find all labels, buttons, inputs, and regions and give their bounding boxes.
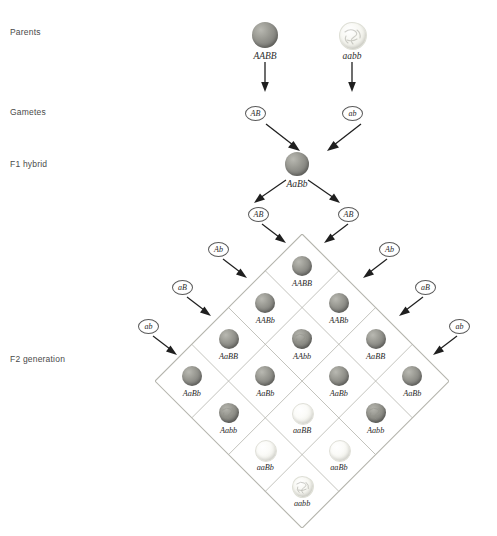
punnett-genotype-label: AaBb	[256, 389, 274, 398]
f1-hybrid-genotype: AaBb	[286, 179, 307, 189]
punnett-genotype-label: AAbb	[293, 352, 311, 361]
arrow-gamete1-to-f1	[266, 124, 302, 154]
punnett-seed-aabb-7	[366, 403, 386, 423]
parent-genotype-1: AABB	[253, 51, 276, 61]
punnett-seed-aabb-10	[292, 403, 314, 425]
punnett-seed-aabb-13	[219, 403, 239, 423]
punnett-seed-aabb-2	[366, 329, 386, 349]
row-label-f1-hybrid: F1 hybrid	[10, 159, 47, 169]
punnett-genotype-label: AaBb	[330, 389, 348, 398]
wrinkle-texture-icon	[219, 403, 239, 423]
punnett-genotype-label: AABb	[329, 316, 348, 325]
punnett-genotype-label: AaBb	[403, 389, 421, 398]
arrow-parent2-to-gamete	[345, 62, 359, 92]
f1-hybrid-seed	[285, 152, 309, 176]
punnett-genotype-label: AABb	[256, 316, 275, 325]
genetics-diagram-canvas: Parents Gametes F1 hybrid F2 generation …	[0, 0, 497, 536]
arrow-f1-to-gamete-left	[252, 180, 286, 206]
punnett-genotype-label: aaBB	[293, 426, 311, 435]
f1-gamete-right-ab3: ab	[449, 319, 470, 334]
punnett-genotype-label: Aabb	[367, 426, 384, 435]
f1-gamete-top-left: AB	[248, 207, 269, 222]
parent-seed-aabb-dominant	[252, 22, 278, 48]
punnett-genotype-label: AaBB	[366, 352, 385, 361]
punnett-seed-aabb-1	[329, 293, 349, 313]
wrinkle-texture-icon	[293, 477, 313, 497]
row-label-parents: Parents	[10, 27, 41, 37]
row-label-f2-generation: F2 generation	[10, 354, 65, 364]
punnett-seed-aabb-11	[329, 440, 351, 462]
gamete-parent-ab-dominant: AB	[245, 106, 266, 121]
punnett-seed-aabb-8	[219, 329, 239, 349]
punnett-seed-aabb-6	[329, 366, 349, 386]
arrow-parent1-to-gamete	[258, 62, 272, 92]
wrinkle-texture-icon	[366, 403, 386, 423]
f1-gamete-top-right: AB	[338, 207, 359, 222]
punnett-genotype-label: aaBb	[330, 463, 347, 472]
arrow-gamete2-to-f1	[325, 124, 361, 154]
parent-genotype-2: aabb	[343, 51, 362, 61]
punnett-genotype-label: aaBb	[257, 463, 274, 472]
punnett-seed-aabb-4	[255, 293, 275, 313]
arrow-f1-to-gamete-right	[308, 180, 342, 206]
punnett-seed-aabb-0	[292, 256, 312, 276]
punnett-seed-aabb-14	[255, 440, 277, 462]
punnett-genotype-label: AaBB	[219, 352, 238, 361]
punnett-genotype-label: aabb	[294, 499, 310, 508]
punnett-genotype-label: AaBb	[183, 389, 201, 398]
row-label-gametes: Gametes	[10, 107, 46, 117]
wrinkle-texture-icon	[340, 23, 366, 49]
parent-seed-aabb-recessive	[339, 22, 367, 50]
punnett-genotype-label: Aabb	[220, 426, 237, 435]
punnett-seed-aabb-12	[182, 366, 202, 386]
gamete-parent-ab-recessive: ab	[342, 106, 363, 121]
punnett-genotype-label: AABB	[292, 279, 312, 288]
